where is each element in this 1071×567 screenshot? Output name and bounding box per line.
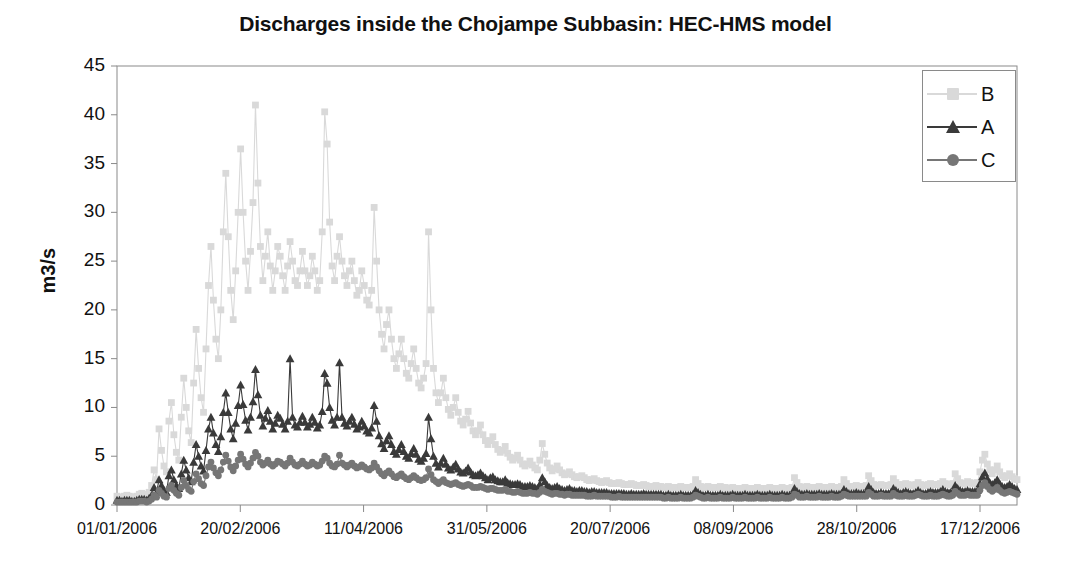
data-point [287,238,294,245]
data-point [251,365,260,373]
data-point [170,431,177,438]
data-point [489,433,496,440]
data-point [418,385,425,392]
data-point [316,277,323,284]
data-point [314,287,321,294]
data-point [347,413,356,421]
data-point [480,431,487,438]
data-point [413,365,420,372]
data-point [455,409,462,416]
data-point [372,417,381,425]
plot-frame [117,66,1017,505]
data-point [319,228,326,235]
data-point [200,409,207,416]
data-point [205,282,212,289]
data-point [246,413,255,421]
legend-item-a[interactable]: A [923,112,1017,142]
data-point [214,447,223,455]
data-point [410,346,417,353]
data-point [370,401,379,409]
data-point [240,209,247,216]
data-point [358,267,365,274]
data-point [346,267,353,274]
data-point [427,434,436,442]
data-point [212,440,221,448]
data-point [386,306,393,313]
data-point [425,228,432,235]
data-point [460,422,467,429]
data-point [279,272,286,279]
plot-area [0,0,1071,567]
data-point [351,277,358,284]
data-point [213,336,220,343]
data-point [286,354,295,362]
data-point [217,466,224,473]
legend-marker-square-icon [947,88,959,100]
data-point [190,380,197,387]
data-point [272,267,279,274]
data-point [304,282,311,289]
data-point [294,282,301,289]
legend-label: C [981,150,995,170]
data-point [326,219,333,226]
data-point [435,399,442,406]
data-point [367,424,376,432]
data-point [366,302,373,309]
data-point [222,452,229,459]
series-line [117,105,1017,497]
data-point [344,282,351,289]
data-point [298,412,307,420]
legend-label: A [981,117,994,137]
data-point [230,316,237,323]
data-point [467,420,474,427]
legend-swatch-circle-icon [923,147,981,173]
data-point [429,452,438,460]
data-point [163,494,170,501]
data-point [277,253,284,260]
data-point [321,108,328,115]
data-point [215,472,222,479]
data-point [210,297,217,304]
data-point [397,440,406,448]
data-point [400,355,407,362]
data-point [534,466,541,473]
legend-item-c[interactable]: C [923,145,1017,175]
data-point [994,463,1001,470]
data-point [242,258,249,265]
data-point [247,248,254,255]
data-point [208,243,215,250]
data-point [158,447,165,454]
data-point [502,443,509,450]
data-point [227,287,234,294]
data-point [208,459,215,466]
data-point [361,282,368,289]
data-point [195,365,202,372]
data-point [423,360,430,367]
data-point [452,394,459,401]
data-point [348,258,355,265]
data-point [439,454,448,462]
data-point [383,321,390,328]
data-point [239,400,248,408]
data-point [309,253,316,260]
data-point [168,399,175,406]
data-point [185,427,192,434]
data-point [378,331,385,338]
data-point [289,258,296,265]
data-point [405,375,412,382]
data-point [430,365,437,372]
data-point [249,397,258,405]
data-point [173,449,180,456]
legend-item-b[interactable]: B [923,79,1017,109]
data-point [424,413,433,421]
data-point [217,306,224,313]
data-point [325,403,334,411]
data-point [229,434,238,442]
data-point [425,466,432,473]
legend-marker-triangle-icon [946,120,960,133]
data-point [250,199,257,206]
data-point [329,263,336,270]
data-point [198,394,205,401]
data-point [161,463,168,470]
data-point [245,287,252,294]
